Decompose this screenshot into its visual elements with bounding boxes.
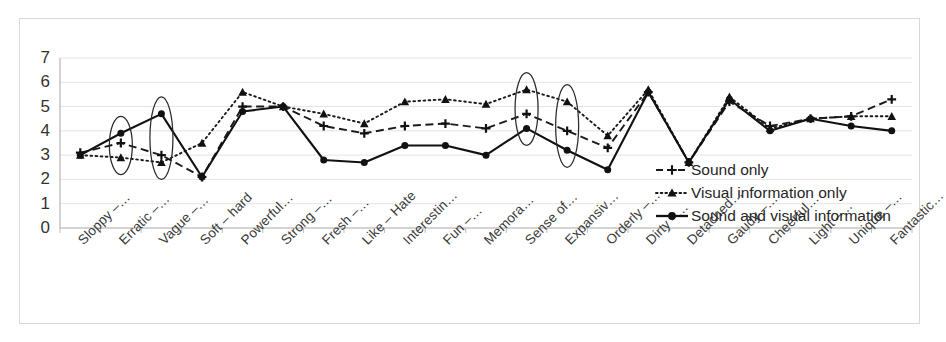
y-tick-label: 6	[28, 73, 50, 90]
data-point-marker	[564, 147, 571, 154]
data-point-marker	[199, 174, 206, 181]
data-point-marker	[361, 159, 368, 166]
data-point-marker	[198, 139, 207, 147]
data-point-marker	[482, 124, 491, 133]
data-point-marker	[522, 85, 531, 93]
chart-legend: Sound only Visual information only Sound…	[655, 158, 917, 227]
data-point-marker	[319, 122, 328, 131]
y-tick-label: 7	[28, 49, 50, 66]
data-point-marker	[645, 89, 652, 96]
data-point-marker	[77, 152, 84, 159]
legend-key-dashed-cross-icon	[655, 162, 689, 178]
data-point-marker	[522, 109, 531, 118]
y-tick-label: 3	[28, 146, 50, 163]
data-point-marker	[848, 123, 855, 130]
legend-item-sound-only: Sound only	[655, 158, 917, 181]
y-tick-label: 5	[28, 98, 50, 115]
data-point-marker	[400, 122, 409, 131]
legend-item-visual-only: Visual information only	[655, 181, 917, 204]
highlight-vague	[150, 97, 173, 180]
data-point-marker	[319, 110, 328, 118]
legend-label-visual-only: Visual information only	[689, 185, 847, 201]
data-point-marker	[523, 125, 530, 132]
legend-item-sound-and-visual: Sound and visual information	[655, 204, 917, 227]
data-point-marker	[239, 108, 246, 115]
y-tick-label: 1	[28, 195, 50, 212]
annotation-ellipses	[109, 73, 578, 180]
data-point-marker	[238, 88, 247, 96]
data-point-marker	[603, 143, 612, 152]
data-point-marker	[360, 119, 369, 127]
highlight-sense-of	[515, 73, 538, 146]
data-point-marker	[887, 112, 896, 120]
data-point-marker	[401, 142, 408, 149]
data-point-marker	[280, 103, 287, 110]
data-point-marker	[726, 96, 733, 103]
data-point-marker	[320, 157, 327, 164]
legend-label-sound-only: Sound only	[689, 162, 769, 178]
data-point-marker	[887, 95, 896, 104]
data-point-marker	[360, 129, 369, 138]
y-tick-label: 4	[28, 122, 50, 139]
data-point-marker	[767, 127, 774, 134]
legend-key-dotted-triangle-icon	[655, 185, 689, 201]
data-point-marker	[563, 97, 572, 105]
data-point-marker	[807, 115, 814, 122]
data-point-marker	[116, 139, 125, 148]
data-point-marker	[158, 110, 165, 117]
y-tick-label: 0	[28, 219, 50, 236]
data-point-marker	[442, 142, 449, 149]
data-point-marker	[117, 130, 124, 137]
legend-key-solid-circle-icon	[655, 208, 689, 224]
data-point-marker	[441, 119, 450, 128]
data-point-marker	[563, 126, 572, 135]
data-point-marker	[483, 152, 490, 159]
legend-label-sound-and-visual: Sound and visual information	[689, 208, 891, 224]
data-point-marker	[888, 127, 895, 134]
data-point-marker	[604, 166, 611, 173]
y-tick-label: 2	[28, 170, 50, 187]
